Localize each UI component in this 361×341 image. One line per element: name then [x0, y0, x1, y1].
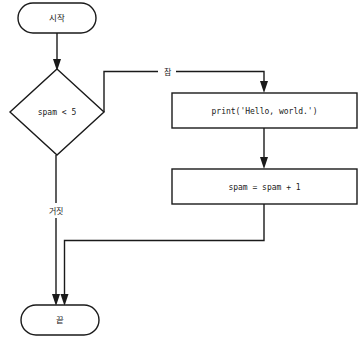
arrowhead-decision-true-to-print — [260, 81, 268, 93]
node-increment-label: spam = spam + 1 — [228, 183, 300, 192]
node-end[interactable]: 끝 — [21, 305, 99, 335]
edge-label-false-text: 거짓 — [49, 206, 63, 216]
node-start[interactable]: 시작 — [18, 3, 96, 33]
flowchart-canvas: 참 거짓 시작 spam < 5 print('Hello, world.') … — [0, 0, 361, 341]
node-end-label: 끝 — [56, 315, 64, 325]
edge-start-to-decision — [53, 33, 61, 71]
edge-print-to-increment — [260, 128, 268, 169]
edge-decision-false-to-end — [52, 155, 60, 306]
node-decision[interactable]: spam < 5 — [10, 69, 104, 155]
node-print[interactable]: print('Hello, world.') — [172, 93, 357, 128]
edge-label-true-text: 참 — [164, 67, 172, 77]
edge-label-false: 거짓 — [40, 203, 72, 218]
arrowhead-increment-loop-to-end — [61, 294, 69, 306]
arrowhead-print-to-increment — [260, 157, 268, 169]
node-print-label: print('Hello, world.') — [212, 107, 318, 116]
node-start-label: 시작 — [49, 13, 65, 23]
node-decision-label: spam < 5 — [38, 108, 77, 117]
node-increment[interactable]: spam = spam + 1 — [172, 169, 357, 204]
edge-label-true: 참 — [158, 64, 176, 79]
edge-increment-loop-to-end — [61, 204, 265, 306]
arrowhead-decision-false-to-end — [52, 294, 60, 306]
